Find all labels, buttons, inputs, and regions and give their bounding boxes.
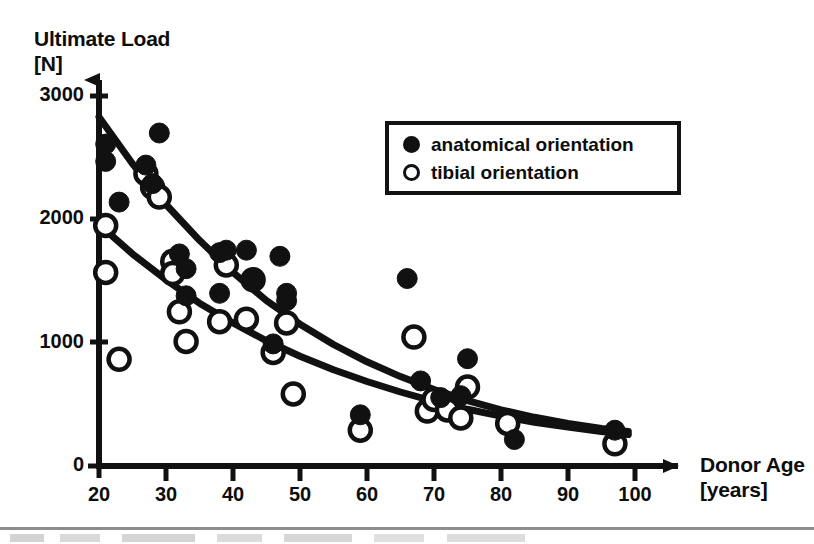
data-point: [276, 312, 297, 333]
plot-canvas: [0, 0, 814, 544]
data-point: [176, 331, 197, 352]
data-point: [236, 240, 256, 260]
data-point: [176, 286, 196, 306]
data-point: [397, 269, 417, 289]
data-point: [403, 327, 424, 348]
data-point: [350, 405, 370, 425]
data-point: [605, 420, 625, 440]
data-point: [109, 192, 129, 212]
data-point: [236, 309, 257, 330]
data-point: [95, 215, 116, 236]
data-point: [431, 388, 451, 408]
data-point: [209, 311, 230, 332]
data-point: [283, 383, 304, 404]
data-point: [277, 291, 297, 311]
x-axis-title-line1: Donor Age: [700, 453, 805, 476]
legend-label-tibial-orientation: tibial orientation: [431, 163, 579, 182]
data-point: [136, 155, 156, 175]
data-point: [176, 259, 196, 279]
data-point: [210, 283, 230, 303]
y-axis-title: Ultimate Load[N]: [34, 26, 170, 76]
y-axis-title-line2: [N]: [34, 52, 63, 75]
x-axis-ticks: [99, 458, 635, 481]
data-point: [451, 386, 471, 406]
y-tick-label-1000: 1000: [40, 330, 85, 353]
data-point: [263, 334, 283, 354]
caption-text-fragment: [10, 534, 570, 542]
legend-item-anatomical-orientation: anatomical orientation: [403, 131, 634, 157]
data-point: [411, 371, 431, 391]
data-point: [95, 262, 116, 283]
legend-label-anatomical-orientation: anatomical orientation: [431, 135, 634, 154]
x-axis-title: Donor Age[years]: [700, 452, 805, 502]
chart-legend: anatomical orientation tibial orientatio…: [385, 121, 681, 195]
page-divider-rule: [0, 527, 814, 530]
data-point: [96, 151, 116, 171]
data-point: [458, 349, 478, 369]
legend-item-tibial-orientation: tibial orientation: [403, 159, 579, 185]
open-circle-icon: [403, 164, 420, 181]
data-point: [504, 430, 524, 450]
y-axis-title-line1: Ultimate Load: [34, 27, 170, 50]
data-point: [149, 123, 169, 143]
filled-circle-icon: [403, 136, 420, 153]
y-tick-label-3000: 3000: [40, 83, 85, 106]
y-tick-label-2000: 2000: [40, 206, 85, 229]
data-point: [450, 407, 471, 428]
data-point: [243, 269, 263, 289]
figure-scatter-ultimate-load-vs-donor-age: Ultimate Load[N] Donor Age[years] 010002…: [0, 0, 814, 544]
data-point: [216, 240, 236, 260]
data-point: [143, 174, 163, 194]
x-tick-label-100: 100: [595, 483, 675, 506]
y-tick-label-0: 0: [73, 453, 84, 476]
data-point: [109, 349, 130, 370]
x-axis-title-line2: [years]: [700, 478, 767, 501]
data-point: [270, 246, 290, 266]
